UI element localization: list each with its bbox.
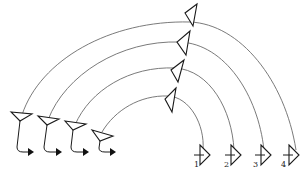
output-arrow-icon [110,148,116,156]
link-arc-1 [22,22,296,150]
receiver-4: 4 [281,145,299,169]
receiver-1: 1 [194,145,210,169]
relay-antenna-4 [165,88,176,112]
receiver-label: 3 [253,160,258,169]
link-diagram: 1 2 3 4 [0,0,305,174]
output-arrow-icon [83,148,89,156]
receiver-2: 2 [224,145,241,169]
receiver-label: 2 [224,160,229,169]
receiver-3: 3 [253,145,271,169]
transmitter-2 [38,116,62,156]
output-arrow-icon [28,148,34,156]
output-arrow-icon [56,148,62,156]
transmitter-4 [92,130,116,156]
link-arc-2 [48,42,264,150]
link-arc-4 [102,96,203,150]
receiver-label: 1 [194,160,199,169]
transmitter-1 [11,112,34,156]
relay-antenna-2 [177,31,190,55]
transmitter-3 [65,121,89,156]
receiver-label: 4 [281,160,286,169]
relay-antenna-3 [171,60,184,82]
